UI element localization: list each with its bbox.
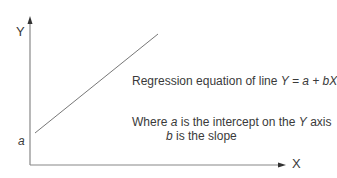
regression-diagram (0, 0, 337, 178)
y-axis-arrow-icon (28, 16, 33, 24)
where-text: Where a is the intercept on the Y axis (132, 115, 331, 129)
equation-text: Regression equation of line Y = a + bX (132, 74, 337, 88)
y-axis-label: Y (16, 25, 25, 39)
x-axis-label: X (292, 157, 301, 171)
equation-formula: Y = a + bX (281, 74, 337, 88)
x-axis-arrow-icon (278, 163, 286, 168)
intercept-label: a (18, 134, 25, 148)
slope-text: b is the slope (166, 129, 237, 143)
